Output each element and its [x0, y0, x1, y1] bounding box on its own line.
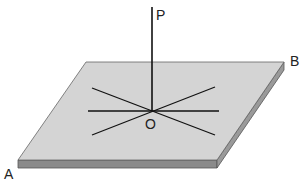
label-A: A: [4, 166, 14, 182]
plate-front-face: [18, 160, 217, 168]
label-B: B: [290, 53, 299, 69]
label-O: O: [145, 116, 156, 132]
perpendicular-line-plane-diagram: P O A B: [0, 0, 305, 183]
label-P: P: [156, 7, 165, 23]
